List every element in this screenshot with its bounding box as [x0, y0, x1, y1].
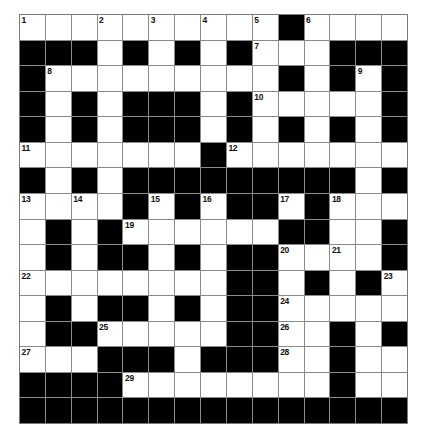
open-cell[interactable]: 5 — [253, 15, 278, 40]
open-cell[interactable]: 24 — [279, 296, 304, 321]
open-cell[interactable] — [149, 271, 174, 296]
open-cell[interactable] — [253, 66, 278, 91]
open-cell[interactable] — [98, 194, 123, 219]
open-cell[interactable] — [305, 373, 330, 398]
open-cell[interactable] — [356, 194, 381, 219]
open-cell[interactable]: 1 — [20, 15, 45, 40]
open-cell[interactable] — [356, 117, 381, 142]
open-cell[interactable] — [72, 245, 97, 270]
open-cell[interactable] — [123, 15, 148, 40]
open-cell[interactable] — [175, 143, 200, 168]
open-cell[interactable] — [20, 220, 45, 245]
open-cell[interactable] — [72, 347, 97, 372]
open-cell[interactable] — [201, 220, 226, 245]
open-cell[interactable] — [149, 322, 174, 347]
open-cell[interactable] — [201, 66, 226, 91]
open-cell[interactable] — [227, 373, 252, 398]
open-cell[interactable] — [330, 296, 355, 321]
open-cell[interactable] — [201, 271, 226, 296]
open-cell[interactable] — [356, 296, 381, 321]
open-cell[interactable] — [149, 143, 174, 168]
open-cell[interactable] — [356, 220, 381, 245]
open-cell[interactable] — [253, 220, 278, 245]
open-cell[interactable]: 22 — [20, 271, 45, 296]
open-cell[interactable]: 20 — [279, 245, 304, 270]
open-cell[interactable] — [46, 194, 71, 219]
open-cell[interactable]: 14 — [72, 194, 97, 219]
open-cell[interactable] — [201, 322, 226, 347]
open-cell[interactable] — [20, 296, 45, 321]
open-cell[interactable] — [201, 245, 226, 270]
open-cell[interactable]: 6 — [305, 15, 330, 40]
open-cell[interactable]: 12 — [227, 143, 252, 168]
open-cell[interactable]: 28 — [279, 347, 304, 372]
open-cell[interactable] — [305, 92, 330, 117]
open-cell[interactable]: 19 — [123, 220, 148, 245]
open-cell[interactable] — [356, 373, 381, 398]
open-cell[interactable] — [46, 347, 71, 372]
open-cell[interactable] — [46, 117, 71, 142]
open-cell[interactable] — [330, 271, 355, 296]
open-cell[interactable] — [123, 66, 148, 91]
open-cell[interactable] — [175, 347, 200, 372]
open-cell[interactable]: 4 — [201, 15, 226, 40]
open-cell[interactable] — [227, 220, 252, 245]
open-cell[interactable] — [253, 373, 278, 398]
open-cell[interactable] — [72, 143, 97, 168]
open-cell[interactable] — [201, 117, 226, 142]
open-cell[interactable] — [149, 245, 174, 270]
open-cell[interactable] — [46, 168, 71, 193]
open-cell[interactable]: 26 — [279, 322, 304, 347]
open-cell[interactable] — [227, 66, 252, 91]
open-cell[interactable] — [98, 66, 123, 91]
open-cell[interactable] — [175, 220, 200, 245]
open-cell[interactable] — [356, 347, 381, 372]
open-cell[interactable] — [149, 66, 174, 91]
open-cell[interactable]: 27 — [20, 347, 45, 372]
open-cell[interactable] — [305, 245, 330, 270]
open-cell[interactable] — [382, 143, 407, 168]
open-cell[interactable] — [98, 92, 123, 117]
open-cell[interactable] — [20, 245, 45, 270]
open-cell[interactable] — [46, 15, 71, 40]
open-cell[interactable] — [72, 15, 97, 40]
open-cell[interactable] — [175, 373, 200, 398]
open-cell[interactable] — [201, 92, 226, 117]
open-cell[interactable] — [123, 143, 148, 168]
open-cell[interactable]: 9 — [356, 66, 381, 91]
open-cell[interactable]: 3 — [149, 15, 174, 40]
open-cell[interactable] — [330, 92, 355, 117]
open-cell[interactable] — [305, 66, 330, 91]
crossword-grid[interactable]: 1234567891011121314151617181920212223242… — [19, 14, 408, 424]
open-cell[interactable] — [253, 117, 278, 142]
open-cell[interactable] — [20, 322, 45, 347]
open-cell[interactable] — [46, 271, 71, 296]
open-cell[interactable] — [175, 15, 200, 40]
open-cell[interactable] — [46, 143, 71, 168]
open-cell[interactable] — [72, 220, 97, 245]
open-cell[interactable]: 7 — [253, 41, 278, 66]
open-cell[interactable] — [279, 373, 304, 398]
open-cell[interactable] — [72, 66, 97, 91]
open-cell[interactable]: 25 — [98, 322, 123, 347]
open-cell[interactable] — [356, 245, 381, 270]
open-cell[interactable] — [356, 322, 381, 347]
open-cell[interactable]: 21 — [330, 245, 355, 270]
open-cell[interactable]: 23 — [382, 271, 407, 296]
open-cell[interactable] — [305, 322, 330, 347]
open-cell[interactable] — [98, 168, 123, 193]
open-cell[interactable] — [305, 347, 330, 372]
open-cell[interactable] — [279, 41, 304, 66]
open-cell[interactable] — [175, 271, 200, 296]
open-cell[interactable] — [72, 271, 97, 296]
open-cell[interactable] — [201, 296, 226, 321]
open-cell[interactable] — [382, 347, 407, 372]
open-cell[interactable]: 10 — [253, 92, 278, 117]
open-cell[interactable] — [201, 41, 226, 66]
open-cell[interactable] — [305, 296, 330, 321]
open-cell[interactable]: 15 — [149, 194, 174, 219]
open-cell[interactable] — [123, 271, 148, 296]
open-cell[interactable] — [149, 296, 174, 321]
open-cell[interactable]: 17 — [279, 194, 304, 219]
open-cell[interactable] — [356, 168, 381, 193]
